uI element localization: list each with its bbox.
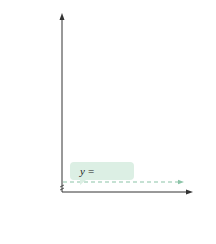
svg-text:=: = [88, 165, 94, 177]
y-axis-arrow-icon [60, 13, 65, 20]
chart: y = [0, 0, 216, 244]
asymptote-arrow-icon [178, 180, 184, 184]
svg-text:y: y [79, 165, 85, 177]
x-axis-arrow-icon [186, 190, 193, 195]
